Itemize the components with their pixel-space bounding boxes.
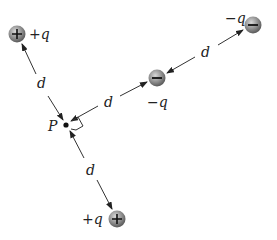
charge-diagram: P d d d d +q −q −q +q xyxy=(0,0,277,240)
distance-label: d xyxy=(86,162,95,178)
charge-negative-topright: −q xyxy=(225,10,262,34)
charge-label: +q xyxy=(82,211,103,227)
distance-label: d xyxy=(201,44,210,60)
charge-positive-topleft: +q xyxy=(9,26,50,43)
distance-label: d xyxy=(37,75,46,91)
charge-label: −q xyxy=(225,10,246,26)
charge-negative-middle: −q xyxy=(147,70,168,111)
charge-label: +q xyxy=(29,26,50,42)
charge-label: −q xyxy=(147,94,168,110)
point-p-dot xyxy=(63,122,68,127)
charge-positive-bottom: +q xyxy=(82,211,126,228)
right-angle-marker xyxy=(71,117,83,130)
point-p-label: P xyxy=(47,118,58,134)
distance-label: d xyxy=(104,94,113,110)
